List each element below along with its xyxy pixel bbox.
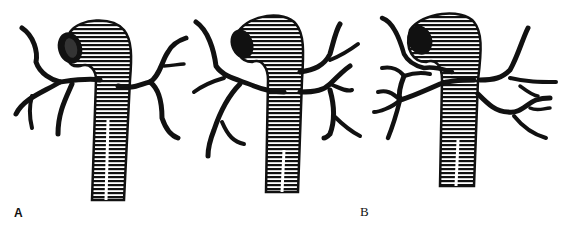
panel-a-drawing (0, 0, 190, 230)
panel-c: C (370, 0, 564, 230)
panel-label-b: B (360, 204, 369, 220)
panel-c-drawing (370, 0, 564, 230)
illustration-figure: A B (0, 0, 564, 230)
panel-b: B (180, 0, 370, 230)
panel-label-a: A (14, 206, 23, 220)
panel-a: A (0, 0, 190, 230)
panel-b-drawing (180, 0, 370, 230)
